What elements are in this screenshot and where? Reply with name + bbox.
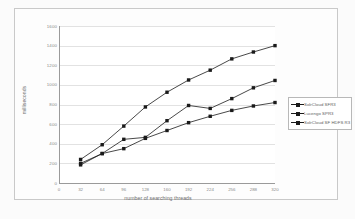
x-tick-label: 320 [263, 187, 287, 192]
x-axis-line [59, 183, 275, 184]
data-point-marker [230, 97, 233, 100]
x-tick-label: 128 [133, 187, 157, 192]
data-point-marker [101, 152, 104, 155]
data-point-marker [144, 105, 147, 108]
y-tick-label: 800 [27, 102, 57, 107]
y-tick-label: 400 [27, 141, 57, 146]
data-point-marker [165, 129, 168, 132]
x-tick-label: 32 [69, 187, 93, 192]
y-axis-line [59, 26, 60, 183]
y-tick-label: 1000 [27, 82, 57, 87]
data-point-marker [273, 79, 276, 82]
x-tick-label: 288 [241, 187, 265, 192]
y-tick-label: 600 [27, 122, 57, 127]
legend-label: SolrCloud SFR3 [304, 102, 336, 107]
y-tick-label: 1600 [27, 24, 57, 29]
y-axis-title: milliseconds [21, 77, 27, 123]
legend-label: SolrCloud SF HDFS R3 [304, 120, 350, 125]
x-tick-label: 192 [177, 187, 201, 192]
y-tick-label: 1400 [27, 43, 57, 48]
y-axis-tick-labels: 02004006008001000120014001600 [23, 9, 57, 201]
data-point-marker [209, 115, 212, 118]
y-tick-label: 0 [27, 181, 57, 186]
plot-area [59, 26, 275, 183]
data-point-marker [209, 107, 212, 110]
legend-marker-icon [291, 110, 304, 117]
data-point-marker [187, 121, 190, 124]
data-point-marker [187, 104, 190, 107]
x-tick-label: 64 [90, 187, 114, 192]
data-point-marker [252, 86, 255, 89]
legend-marker-icon [291, 119, 304, 126]
x-axis-tick-labels: 0326496128160192224256288320 [15, 187, 339, 195]
chart-page: 02004006008001000120014001600 0326496128… [0, 0, 355, 219]
series-line [81, 46, 275, 160]
series-line [81, 103, 275, 165]
data-point-marker [209, 68, 212, 71]
x-tick-label: 160 [155, 187, 179, 192]
legend-label: Lucengo SPR3 [304, 111, 334, 116]
data-point-marker [252, 104, 255, 107]
data-point-marker [165, 91, 168, 94]
x-axis-title: number of searching threads [15, 195, 301, 201]
series-line [81, 80, 275, 163]
legend-item[interactable]: SolrCloud SFR3 [291, 100, 349, 109]
x-tick-label: 96 [112, 187, 136, 192]
data-point-marker [79, 162, 82, 165]
data-point-marker [122, 147, 125, 150]
data-point-marker [187, 78, 190, 81]
legend-item[interactable]: SolrCloud SF HDFS R3 [291, 118, 349, 127]
data-point-marker [252, 50, 255, 53]
data-point-marker [122, 124, 125, 127]
data-point-marker [79, 158, 82, 161]
data-point-marker [230, 109, 233, 112]
data-point-marker [144, 136, 147, 139]
y-tick-label: 200 [27, 161, 57, 166]
data-point-marker [230, 57, 233, 60]
data-point-marker [122, 138, 125, 141]
x-tick-label: 256 [220, 187, 244, 192]
x-tick-label: 0 [47, 187, 71, 192]
data-point-marker [273, 44, 276, 47]
data-point-marker [273, 101, 276, 104]
data-point-marker [101, 143, 104, 146]
legend-marker-icon [291, 101, 304, 108]
y-tick-label: 1200 [27, 63, 57, 68]
chart-frame: 02004006008001000120014001600 0326496128… [14, 8, 338, 200]
data-point-marker [165, 119, 168, 122]
legend-item[interactable]: Lucengo SPR3 [291, 109, 349, 118]
x-tick-label: 224 [198, 187, 222, 192]
chart-legend: SolrCloud SFR3Lucengo SPR3SolrCloud SF H… [288, 97, 352, 130]
series-lines [59, 26, 275, 183]
